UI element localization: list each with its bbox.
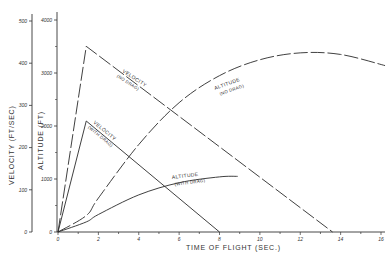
x-tick-label: 10	[257, 236, 263, 242]
velocity-ticks: 0100200300400500	[18, 18, 32, 235]
velocity-tick-label: 100	[19, 187, 28, 193]
altitude-tick-label: 0	[49, 229, 52, 235]
x-tick-label: 12	[297, 236, 303, 242]
flight-chart: 0100200300400500 01000200030004000 02468…	[0, 0, 392, 256]
x-axis-title: TIME OF FLIGHT (SEC.)	[186, 244, 281, 252]
velocity-tick-label: 300	[19, 102, 28, 108]
altitude-tick-label: 4000	[41, 17, 52, 23]
label-altitude-no-drag: ALTITUDE (NO DRAG)	[213, 75, 245, 97]
x-tick-label: 8	[218, 236, 221, 242]
x-tick-label: 14	[338, 236, 344, 242]
x-tick-label: 6	[178, 236, 181, 242]
altitude-tick-label: 1000	[41, 176, 52, 182]
x-tick-label: 2	[96, 236, 100, 242]
velocity-tick-label: 500	[19, 18, 28, 24]
velocity-tick-label: 400	[19, 60, 28, 66]
x-tick-label: 0	[57, 236, 60, 242]
x-tick-label: 16	[378, 236, 384, 242]
velocity-tick-label: 0	[24, 229, 27, 235]
velocity-axis-title: VELOCITY (FT/SEC)	[8, 105, 16, 185]
altitude-with-drag-curve	[58, 176, 238, 232]
velocity-tick-label: 200	[18, 144, 28, 150]
x-tick-label: 4	[137, 236, 140, 242]
svg-text:(WITH DRAG): (WITH DRAG)	[174, 178, 205, 187]
x-ticks: 0246810121416	[57, 232, 384, 242]
label-altitude-with-drag: ALTITUDE (WITH DRAG)	[171, 170, 205, 187]
velocity-no-drag-curve	[58, 46, 333, 232]
altitude-axis-title: ALTITUDE (FT)	[37, 111, 45, 170]
altitude-tick-label: 3000	[41, 70, 52, 76]
